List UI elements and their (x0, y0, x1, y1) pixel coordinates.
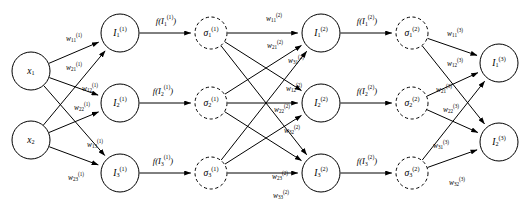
weight-w12-2: w12(2) (286, 82, 302, 94)
node-I2_1: I2(1) (101, 84, 139, 122)
node-s1_2: σ1(2) (396, 17, 428, 49)
edge-x2-I3_1 (49, 147, 98, 165)
edge-x1-I1_1 (49, 42, 99, 63)
weight-w12-3: w12(3) (447, 57, 463, 69)
node-I1_3: I1(3) (480, 44, 518, 82)
node-I1_2: I1(2) (302, 14, 340, 52)
activation-f-I2-1: f(I2(1)) (153, 85, 173, 97)
weight-w32-3: w32(3) (449, 176, 465, 188)
weight-w11-2: w11(2) (266, 12, 282, 24)
weight-w12-1: w12(1) (82, 82, 98, 94)
weight-w31-2: w31(2) (288, 54, 304, 66)
node-x2: x2 (12, 121, 50, 159)
weight-w11-1: w11(1) (66, 32, 82, 44)
weight-w22-2: w22(2) (274, 103, 290, 115)
network-canvas: x1x2I1(1)I2(1)I3(1)σ1(1)σ2(1)σ3(1)I1(2)I… (0, 0, 530, 207)
node-s2_1: σ2(1) (195, 87, 227, 119)
node-circle-I2_1 (101, 84, 139, 122)
weight-w23-1: w23(1) (68, 171, 84, 183)
node-circle-I1_1 (101, 14, 139, 52)
weight-w23-2: w23(2) (272, 170, 288, 182)
node-circle-I2_3 (480, 123, 518, 161)
weight-w22-1: w22(1) (74, 101, 90, 113)
node-I2_3: I2(3) (480, 123, 518, 161)
edge-s2_2-I1_3 (427, 73, 478, 96)
node-x1: x1 (12, 52, 50, 90)
node-circle-I3_1 (101, 154, 139, 192)
activation-labels-group: f(I1(1))f(I2(1))f(I3(1))f(I1(2))f(I2(2))… (153, 15, 377, 167)
node-I3_2: I3(2) (302, 154, 340, 192)
activation-f-I1-1: f(I1(1)) (156, 15, 176, 27)
node-I1_1: I1(1) (101, 14, 139, 52)
node-circle-I1_2 (302, 14, 340, 52)
node-I2_2: I2(2) (302, 84, 340, 122)
weight-w22-3: w22(3) (443, 103, 459, 115)
edge-s2_1-I3_2 (225, 112, 302, 161)
edge-s3_1-I2_2 (225, 115, 302, 164)
node-circle-I1_3 (480, 44, 518, 82)
node-s1_1: σ1(1) (195, 17, 227, 49)
neural-network-diagram: x1x2I1(1)I2(1)I3(1)σ1(1)σ2(1)σ3(1)I1(2)I… (0, 0, 530, 207)
weight-w31-3: w31(3) (433, 139, 449, 151)
weight-w32-2: w32(2) (284, 124, 300, 136)
activation-f-I3-2: f(I3(2)) (357, 155, 377, 167)
weight-w33-2: w33(2) (273, 189, 289, 201)
edge-s1_2-I1_3 (428, 38, 477, 55)
activation-f-I3-1: f(I3(1)) (153, 155, 173, 167)
edge-s3_2-I2_3 (428, 150, 478, 168)
node-s3_1: σ3(1) (195, 157, 227, 189)
weight-w21-2: w21(2) (267, 39, 283, 51)
edge-x2-I2_1 (49, 112, 99, 133)
node-circle-I3_2 (302, 154, 340, 192)
activation-f-I1-2: f(I1(2)) (357, 15, 377, 27)
node-s2_2: σ2(2) (396, 87, 428, 119)
node-circle-I2_2 (302, 84, 340, 122)
weight-w11-3: w11(3) (447, 27, 463, 39)
node-s3_2: σ3(2) (396, 157, 428, 189)
edge-s3_2-I1_3 (422, 81, 484, 160)
node-I3_1: I3(1) (101, 154, 139, 192)
activation-f-I2-2: f(I2(2)) (357, 85, 377, 97)
weight-w13-1: w13(1) (87, 138, 103, 150)
weight-w21-3: w21(3) (436, 83, 452, 95)
weight-w21-1: w21(1) (66, 61, 82, 73)
edge-s3_1-I1_2 (221, 51, 306, 160)
